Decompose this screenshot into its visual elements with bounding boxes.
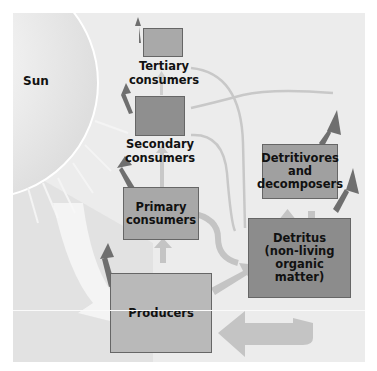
sun-icon [13,13,98,198]
tertiary-consumers-box [143,28,183,57]
label-line: consumers [121,73,207,87]
label-line: (non-living organic [249,245,350,271]
label-line: decomposers [257,178,343,191]
detritus-box: Detritus (non-living organic matter) [248,218,351,298]
label-line: consumers [117,151,203,165]
label-line: matter) [275,271,324,284]
sun-label: Sun [23,74,49,88]
secondary-consumers-box [135,96,185,136]
scan-line [13,310,365,311]
label-line: consumers [126,214,196,227]
label-line: Producers [128,307,194,320]
producers-box: Producers [110,273,212,353]
label-line: Secondary [117,137,203,151]
label-line: Primary [136,201,187,214]
recycle-arrow [218,311,313,357]
label-line: Tertiary [121,59,207,73]
detritivores-box: Detritivores and decomposers [262,144,338,199]
primary-consumers-box: Primary consumers [123,187,199,240]
secondary-consumers-label: Secondary consumers [117,137,203,165]
tertiary-consumers-label: Tertiary consumers [121,59,207,87]
